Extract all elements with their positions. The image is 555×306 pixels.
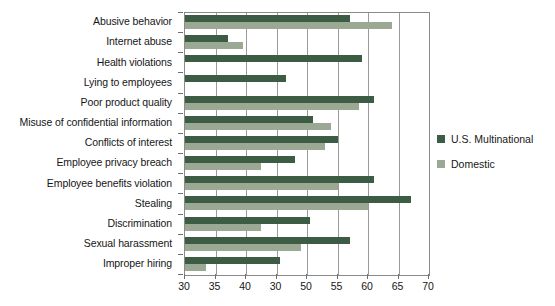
category-tick [178,72,183,73]
bar [185,203,368,210]
value-tick [276,274,277,279]
category-tick [178,214,183,215]
bar [185,42,243,49]
bar [185,75,286,82]
value-tick-label: 70 [422,280,434,292]
category-label: Sexual harassment [0,234,178,254]
legend-label: Domestic [451,158,495,170]
category-label: Lying to employees [0,72,178,92]
value-tick [428,274,429,279]
bar [185,96,374,103]
category-label: Stealing [0,193,178,213]
bar [185,196,411,203]
bar [185,183,338,190]
legend-swatch-icon [437,160,445,168]
category-tick [178,12,183,13]
bar [185,264,206,271]
category-tick [178,113,183,114]
legend-item: U.S. Multinational [437,133,552,145]
value-tick [367,274,368,279]
value-tick-label: 35 [209,280,221,292]
bar [185,116,313,123]
category-axis: Abusive behaviorInternet abuseHealth vio… [0,12,178,274]
value-tick [184,274,185,279]
bar [185,217,310,224]
category-tick [178,32,183,33]
category-label: Employee benefits violation [0,173,178,193]
bar [185,55,362,62]
value-tick [215,274,216,279]
value-tick-label: 30 [270,280,282,292]
plot-area [184,12,430,276]
value-tick-label: 30 [178,280,190,292]
value-tick-label: 60 [361,280,373,292]
category-tick [178,52,183,53]
bar [185,103,359,110]
bar-group [185,235,429,255]
bar-group [185,215,429,235]
bar [185,244,301,251]
chart-legend: U.S. MultinationalDomestic [437,133,552,183]
category-label: Misuse of confidential information [0,113,178,133]
category-tick [178,133,183,134]
value-tick-label: 40 [239,280,251,292]
category-tick [178,234,183,235]
bar-group [185,154,429,174]
category-label: Health violations [0,52,178,72]
legend-swatch-icon [437,135,445,143]
legend-item: Domestic [437,158,552,170]
bar [185,163,261,170]
value-tick [245,274,246,279]
category-label: Abusive behavior [0,12,178,32]
value-tick [306,274,307,279]
bar-group [185,114,429,134]
category-tick [178,254,183,255]
bar [185,176,374,183]
value-axis-tick-labels: 303540305055606570 [0,280,555,296]
bar-group [185,174,429,194]
bar-group [185,255,429,275]
bar [185,35,228,42]
bar [185,15,350,22]
bar-group [185,134,429,154]
bar [185,123,331,130]
bar [185,156,295,163]
category-label: Improper hiring [0,254,178,274]
bar [185,257,280,264]
value-tick-label: 65 [392,280,404,292]
bar-group [185,94,429,114]
value-tick-label: 55 [331,280,343,292]
value-tick [398,274,399,279]
category-tick [178,274,183,275]
category-label: Poor product quality [0,93,178,113]
legend-label: U.S. Multinational [451,133,533,145]
category-label: Internet abuse [0,32,178,52]
category-tick [178,93,183,94]
bar [185,136,338,143]
category-label: Discrimination [0,214,178,234]
category-label: Conflicts of interest [0,133,178,153]
category-label: Employee privacy breach [0,153,178,173]
category-tick [178,193,183,194]
bar-group [185,53,429,73]
bar-group [185,73,429,93]
bar-group [185,33,429,53]
category-tick [178,173,183,174]
bar-chart: Abusive behaviorInternet abuseHealth vio… [0,0,555,306]
bar-group [185,13,429,33]
bar-group [185,194,429,214]
value-tick [337,274,338,279]
bar [185,237,350,244]
category-tick [178,153,183,154]
bar [185,224,261,231]
value-tick-label: 50 [300,280,312,292]
bar [185,22,392,29]
bar-series-container [185,13,429,275]
bar [185,143,325,150]
